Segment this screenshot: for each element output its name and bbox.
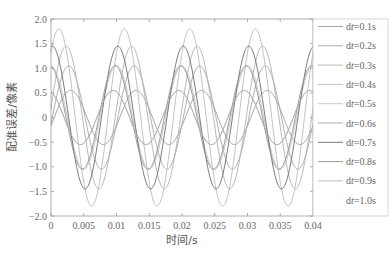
x-tick-label: 0.035 (269, 220, 292, 231)
x-tick-label: 0.01 (108, 220, 126, 231)
legend-label: dt=0.3s (346, 60, 376, 71)
y-tick-label: 0.5 (35, 87, 48, 98)
y-tick-label: 1.5 (35, 38, 48, 49)
legend-label: dt=0.4s (346, 79, 376, 90)
y-tick-label: 2.0 (35, 14, 48, 25)
legend-label: dt=0.5s (346, 98, 376, 109)
y-tick-label: −1.5 (29, 186, 47, 197)
x-tick-label: 0 (49, 220, 54, 231)
legend-label: dt=0.6s (346, 118, 376, 129)
legend-label: dt=0.7s (346, 137, 376, 148)
plot-frame (51, 19, 313, 216)
y-axis: 2.01.51.00.50−0.5−1.0−1.5−2.0 (29, 14, 313, 222)
x-tick-label: 0.04 (304, 220, 322, 231)
legend-label: dt=0.2s (346, 40, 376, 51)
x-tick-label: 0.02 (173, 220, 191, 231)
legend-label: dt=0.1s (346, 21, 376, 32)
legend-label: dt=0.9s (346, 175, 376, 186)
y-tick-label: −0.5 (29, 137, 47, 148)
y-tick-label: −2.0 (29, 211, 47, 222)
y-tick-label: 0 (42, 112, 47, 123)
x-tick-label: 0.015 (138, 220, 161, 231)
legend-label: dt=0.8s (346, 156, 376, 167)
y-tick-label: −1.0 (29, 161, 47, 172)
plot-series-group (51, 29, 313, 206)
line-chart: 2.01.51.00.50−0.5−1.0−1.5−2.0 00.0050.01… (0, 0, 392, 259)
x-tick-label: 0.025 (204, 220, 227, 231)
x-tick-label: 0.005 (73, 220, 96, 231)
x-axis-label: 时间/s (166, 234, 198, 247)
y-tick-label: 1.0 (35, 63, 48, 74)
x-tick-label: 0.03 (239, 220, 257, 231)
legend-label: dt=1.0s (346, 195, 376, 206)
y-axis-label: 配准误差/像素 (5, 82, 19, 152)
